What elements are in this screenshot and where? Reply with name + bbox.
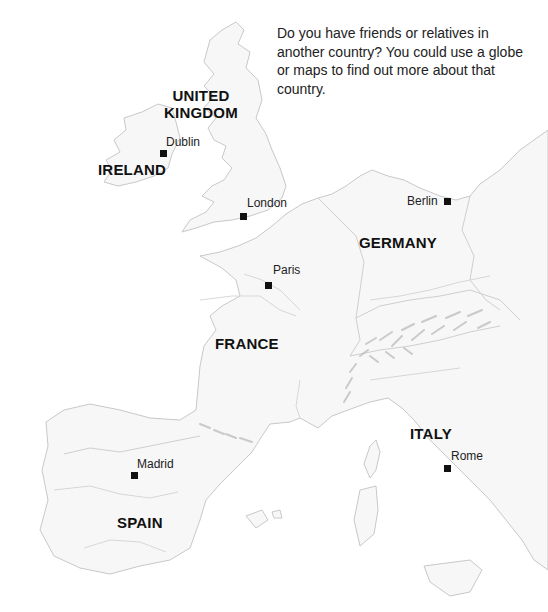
country-label-france: FRANCE	[215, 335, 279, 352]
continent-landmass	[40, 130, 548, 574]
city-marker-madrid	[131, 472, 138, 479]
sicily-landmass	[424, 560, 482, 596]
city-label-london: London	[247, 196, 287, 210]
city-label-berlin: Berlin	[407, 194, 438, 208]
intro-text: Do you have friends or relatives in anot…	[277, 24, 537, 98]
city-marker-dublin	[160, 150, 167, 157]
sardinia-landmass	[354, 486, 378, 546]
country-label-ireland: IRELAND	[98, 161, 166, 178]
city-marker-berlin	[444, 198, 451, 205]
city-marker-rome	[444, 465, 451, 472]
city-label-madrid: Madrid	[137, 457, 174, 471]
corsica-landmass	[364, 440, 380, 478]
country-label-italy: ITALY	[410, 425, 452, 442]
city-label-dublin: Dublin	[166, 135, 200, 149]
uk-label-line2: KINGDOM	[164, 104, 238, 121]
city-marker-london	[240, 213, 247, 220]
balearic-islands	[246, 510, 282, 528]
city-marker-paris	[265, 282, 272, 289]
country-label-spain: SPAIN	[117, 514, 163, 531]
country-label-united-kingdom: UNITED KINGDOM	[164, 87, 238, 121]
uk-label-line1: UNITED	[164, 87, 238, 104]
country-label-germany: GERMANY	[359, 234, 437, 251]
city-label-paris: Paris	[273, 263, 300, 277]
city-label-rome: Rome	[451, 449, 483, 463]
